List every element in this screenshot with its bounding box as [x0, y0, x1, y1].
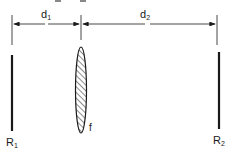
- label-r1: R1: [6, 136, 18, 149]
- lens: [76, 47, 87, 133]
- clipped-top-text: [55, 0, 86, 2]
- dimension-d1: d1: [14, 8, 79, 24]
- label-r2: R2: [213, 134, 225, 147]
- dimension-d2: d2: [83, 8, 215, 24]
- label-d2: d2: [140, 8, 150, 21]
- optical-cavity-diagram: d1 d2 R1 f R2: [0, 0, 232, 152]
- label-f: f: [89, 122, 92, 133]
- label-d1: d1: [41, 8, 51, 21]
